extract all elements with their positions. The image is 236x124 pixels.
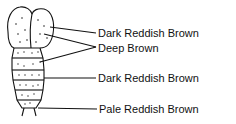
label-pale-reddish-brown: Pale Reddish Brown	[99, 103, 199, 115]
leader-line-4	[38, 108, 97, 109]
leader-line-2a	[44, 34, 96, 47]
label-dark-reddish-brown-middle: Dark Reddish Brown	[98, 72, 199, 84]
leader-line-2b	[40, 47, 96, 62]
label-deep-brown: Deep Brown	[98, 42, 159, 54]
leader-line-1	[50, 27, 96, 33]
label-dark-reddish-brown-top: Dark Reddish Brown	[98, 27, 199, 39]
body-segments	[12, 48, 44, 108]
